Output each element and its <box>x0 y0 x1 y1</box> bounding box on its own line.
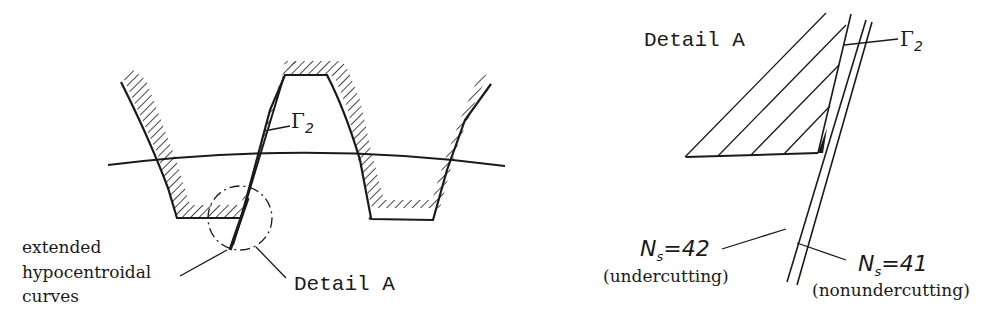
gamma2-label-right: Γ2 <box>900 27 923 54</box>
ns42-label: Ns=42 <box>640 236 710 264</box>
right-panel: Detail A Γ2 Ns=42 (undercutting) Ns=41 (… <box>603 13 970 300</box>
ns41-label: Ns=41 <box>858 251 928 279</box>
curve-ns-42 <box>787 20 866 282</box>
hypocentroidal-label: extended hypocentroidal curves <box>22 237 157 306</box>
ns42-note: (undercutting) <box>603 266 729 286</box>
gear-undercutting-figure: Γ2 extended hypocentroidal curves Detail… <box>0 0 1008 323</box>
detail-a-leader <box>256 247 286 278</box>
left-panel: Γ2 extended hypocentroidal curves Detail… <box>22 61 505 306</box>
ns41-note: (nonundercutting) <box>812 280 970 300</box>
gamma2-label-left: Γ2 <box>291 109 314 136</box>
detail-a-label-left: Detail A <box>294 273 395 296</box>
detail-a-title: Detail A <box>644 29 745 52</box>
gamma2-leader-right <box>844 39 898 45</box>
hypocentroidal-leader <box>180 250 227 276</box>
ns42-leader <box>722 229 786 249</box>
